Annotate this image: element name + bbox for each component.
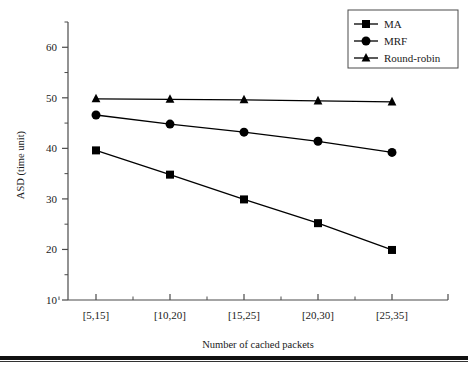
data-point-ma-3 [314, 219, 322, 227]
x-tick-label: [25,35] [376, 309, 408, 321]
legend: MAMRFRound-robin [348, 10, 458, 68]
legend-label-round-robin: Round-robin [384, 52, 441, 64]
y-tick-label: 50 [46, 92, 58, 104]
y-tick-label: 30 [46, 193, 58, 205]
data-point-mrf-1 [166, 120, 175, 129]
data-point-ma-2 [240, 195, 248, 203]
y-tick-label: 40 [46, 142, 58, 154]
x-tick-label: [20,30] [302, 309, 334, 321]
footer-rule-thick [0, 356, 468, 360]
asd-vs-cached-packets-line-chart: 102030405060 [5,15][10,20][15,25][20,30]… [0, 0, 468, 370]
x-tick-label: [10,20] [154, 309, 186, 321]
y-tick-label: 10 [46, 294, 58, 306]
y-tick-label: 60 [46, 41, 58, 53]
y-tick-label: 20 [46, 243, 58, 255]
data-point-mrf-0 [92, 111, 101, 120]
data-point-mrf-2 [240, 128, 249, 137]
legend-marker-mrf [362, 37, 371, 46]
data-point-mrf-4 [388, 148, 397, 157]
data-point-ma-4 [388, 246, 396, 254]
x-axis-title: Number of cached packets [202, 339, 314, 350]
legend-marker-ma [362, 20, 370, 28]
data-point-ma-0 [92, 146, 100, 154]
y-axis-title: ASD (time unit) [15, 130, 27, 199]
footer-rule-thin [0, 361, 468, 362]
x-tick-label: [15,25] [228, 309, 260, 321]
data-point-ma-1 [166, 171, 174, 179]
x-tick-label: [5,15] [83, 309, 110, 321]
data-point-mrf-3 [314, 137, 323, 146]
legend-label-mrf: MRF [384, 35, 407, 47]
figure-container: 102030405060 [5,15][10,20][15,25][20,30]… [0, 0, 468, 370]
legend-label-ma: MA [384, 18, 402, 30]
